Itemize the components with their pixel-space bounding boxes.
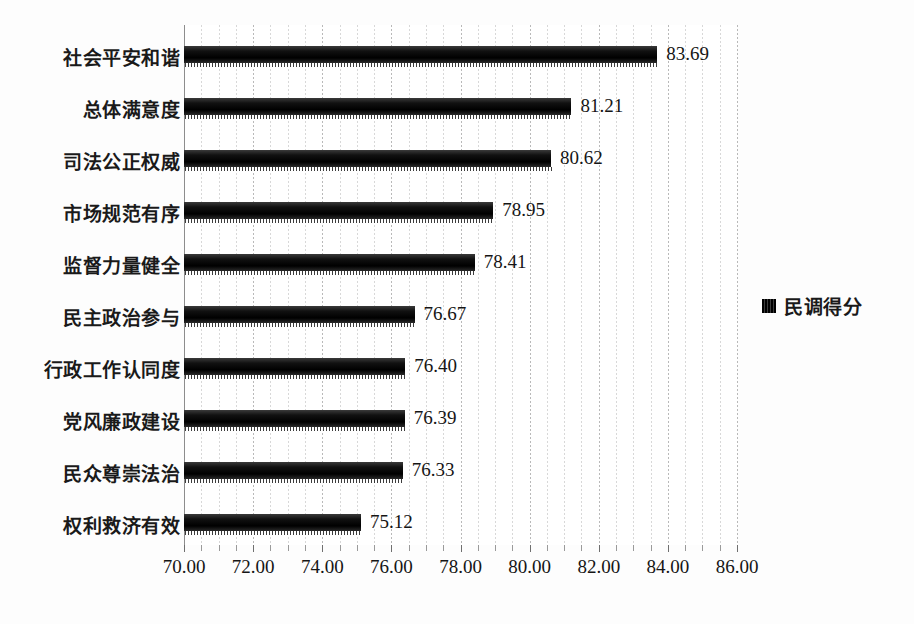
category-label: 监督力量健全 xyxy=(63,251,180,278)
category-label: 行政工作认同度 xyxy=(44,355,181,382)
x-tick-label: 70.00 xyxy=(163,556,206,578)
bar xyxy=(184,514,361,531)
category-label: 总体满意度 xyxy=(83,95,181,122)
x-tick-minor xyxy=(219,545,220,551)
bar-row xyxy=(184,410,405,462)
bar-value-label: 83.69 xyxy=(666,43,709,65)
bar-value-label: 75.12 xyxy=(370,511,413,533)
bar xyxy=(184,410,405,427)
bar xyxy=(184,462,403,479)
bar-shadow xyxy=(185,479,404,483)
bar xyxy=(184,46,657,63)
category-label: 市场规范有序 xyxy=(63,199,180,226)
x-tick-minor xyxy=(357,545,358,551)
x-tick-minor xyxy=(426,545,427,551)
bar-shadow xyxy=(185,323,416,327)
x-tick-minor xyxy=(495,545,496,551)
bar xyxy=(184,98,571,115)
x-tick-minor xyxy=(409,545,410,551)
x-tick-label: 72.00 xyxy=(232,556,275,578)
bar-shadow xyxy=(185,63,658,67)
x-tick-label: 86.00 xyxy=(716,556,759,578)
x-tick-major xyxy=(461,545,462,552)
x-tick-minor xyxy=(616,545,617,551)
x-tick-label: 82.00 xyxy=(577,556,620,578)
bar-value-label: 76.67 xyxy=(424,303,467,325)
x-tick-minor xyxy=(512,545,513,551)
bar-row xyxy=(184,462,403,514)
bar-row xyxy=(184,150,551,202)
gridline-major xyxy=(737,25,738,545)
x-tick-minor xyxy=(374,545,375,551)
legend-label: 民调得分 xyxy=(784,292,862,319)
category-label: 党风廉政建设 xyxy=(63,407,180,434)
x-tick-major xyxy=(668,545,669,552)
bar-shadow xyxy=(185,167,552,171)
x-tick-minor xyxy=(564,545,565,551)
gridline-minor xyxy=(685,25,686,545)
plot-area xyxy=(184,25,737,545)
x-tick-minor xyxy=(236,545,237,551)
bar-row xyxy=(184,306,415,358)
x-tick-minor xyxy=(340,545,341,551)
x-tick-major xyxy=(391,545,392,552)
x-tick-label: 80.00 xyxy=(508,556,551,578)
bar-row xyxy=(184,46,657,98)
x-tick-label: 76.00 xyxy=(370,556,413,578)
x-tick-minor xyxy=(702,545,703,551)
x-tick-minor xyxy=(288,545,289,551)
x-tick-label: 74.00 xyxy=(301,556,344,578)
bar-value-label: 78.41 xyxy=(484,251,527,273)
bar-value-label: 78.95 xyxy=(502,199,545,221)
category-label: 民主政治参与 xyxy=(63,303,180,330)
gridline-minor xyxy=(633,25,634,545)
x-tick-minor xyxy=(651,545,652,551)
x-tick-minor xyxy=(478,545,479,551)
bar xyxy=(184,358,405,375)
bar-value-label: 80.62 xyxy=(560,147,603,169)
category-label: 民众尊崇法治 xyxy=(63,459,180,486)
category-label: 司法公正权威 xyxy=(63,147,180,174)
bar-row xyxy=(184,254,475,306)
bar-shadow xyxy=(185,115,572,119)
x-tick-major xyxy=(530,545,531,552)
x-tick-major xyxy=(322,545,323,552)
x-tick-major xyxy=(599,545,600,552)
gridline-minor xyxy=(651,25,652,545)
bar-row xyxy=(184,202,493,254)
chart-screenshot: 社会平安和谐总体满意度司法公正权威市场规范有序监督力量健全民主政治参与行政工作认… xyxy=(0,0,914,624)
bar-shadow xyxy=(185,427,406,431)
bar xyxy=(184,202,493,219)
bar xyxy=(184,150,551,167)
x-tick-label: 84.00 xyxy=(647,556,690,578)
x-tick-minor xyxy=(270,545,271,551)
bar-shadow xyxy=(185,219,494,223)
category-label: 权利救济有效 xyxy=(63,511,180,538)
x-tick-minor xyxy=(201,545,202,551)
gridline-minor xyxy=(720,25,721,545)
x-tick-minor xyxy=(443,545,444,551)
x-tick-major xyxy=(253,545,254,552)
x-axis-ticks xyxy=(184,545,737,552)
legend-swatch-icon xyxy=(762,299,776,313)
category-label: 社会平安和谐 xyxy=(63,43,180,70)
bar-value-label: 76.40 xyxy=(414,355,457,377)
x-tick-minor xyxy=(305,545,306,551)
x-tick-label: 78.00 xyxy=(439,556,482,578)
x-tick-major xyxy=(737,545,738,552)
x-tick-minor xyxy=(581,545,582,551)
gridline-major xyxy=(668,25,669,545)
bar-shadow xyxy=(185,375,406,379)
bar-value-label: 81.21 xyxy=(580,95,623,117)
x-tick-minor xyxy=(685,545,686,551)
bar-shadow xyxy=(185,531,362,535)
bar-row xyxy=(184,358,405,410)
bar xyxy=(184,306,415,323)
bar-value-label: 76.39 xyxy=(414,407,457,429)
bar-value-label: 76.33 xyxy=(412,459,455,481)
x-tick-minor xyxy=(547,545,548,551)
bar-row xyxy=(184,98,571,150)
bar xyxy=(184,254,475,271)
x-tick-minor xyxy=(633,545,634,551)
gridline-minor xyxy=(702,25,703,545)
